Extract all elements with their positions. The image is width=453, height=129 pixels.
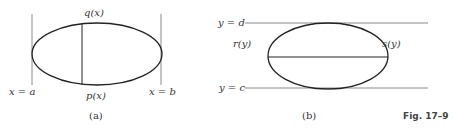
label-y-equals-c: y = c [218, 82, 245, 93]
figure-17-9: q(x) p(x) x = a x = b (a) y = d y = c r(… [0, 0, 453, 129]
caption-b: (b) [302, 110, 316, 121]
label-p-of-x: p(x) [86, 90, 106, 101]
region-ellipse-a [32, 23, 162, 85]
label-x-equals-a: x = a [9, 86, 35, 97]
panel-a: q(x) p(x) x = a x = b (a) [9, 7, 176, 121]
label-x-equals-b: x = b [149, 86, 176, 97]
caption-a: (a) [89, 110, 103, 121]
panel-b: y = d y = c r(y) s(y) (b) [217, 17, 428, 121]
label-q-of-x: q(x) [84, 7, 104, 18]
label-s-of-y: s(y) [382, 38, 401, 49]
region-ellipse-b [268, 23, 388, 89]
label-r-of-y: r(y) [233, 38, 251, 49]
figure-label: Fig. 17–9 [403, 111, 449, 121]
label-y-equals-d: y = d [217, 17, 245, 28]
